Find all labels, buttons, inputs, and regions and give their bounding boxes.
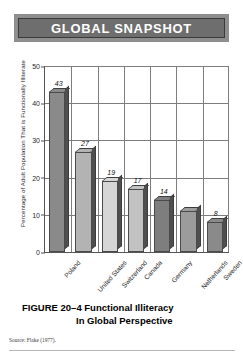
y-axis-tick-label: 20	[32, 174, 45, 181]
gridline	[45, 103, 229, 104]
y-axis-tick-label: 0	[36, 249, 45, 256]
banner-inner-frame: GLOBAL SNAPSHOT	[18, 18, 225, 38]
plot-area: 0102030405043Poland27United States19Swit…	[44, 66, 229, 253]
y-axis-tick-label: 10	[32, 211, 45, 218]
bar-value-label: 27	[81, 140, 89, 147]
bar-poland: 43Poland	[49, 92, 65, 252]
bar-value-label: 14	[160, 188, 168, 195]
category-separator	[176, 66, 177, 252]
bottom-rule	[9, 350, 235, 351]
bar-front-face	[207, 222, 223, 252]
bar-front-face	[128, 189, 144, 252]
banner-title: GLOBAL SNAPSHOT	[51, 21, 192, 36]
bar-side-face	[92, 145, 96, 249]
category-separator	[71, 66, 72, 252]
y-axis-tick-label: 30	[32, 137, 45, 144]
y-axis-tick-label: 50	[32, 63, 45, 70]
bar-netherlands: Netherlands	[180, 211, 196, 252]
gridline	[45, 140, 229, 141]
figure-caption: FIGURE 20–4 Functional Illiteracy In Glo…	[0, 302, 243, 326]
y-axis-tick-label: 40	[32, 100, 45, 107]
category-separator	[203, 66, 204, 252]
bar-front-face	[154, 200, 170, 252]
bar-front-face	[180, 211, 196, 252]
x-axis-tick-label: Poland	[63, 259, 82, 279]
bar-side-face	[223, 216, 227, 249]
bar-value-label: 17	[134, 177, 142, 184]
category-separator	[124, 66, 125, 252]
bar-canada: 17Canada	[128, 189, 144, 252]
category-separator	[98, 66, 99, 252]
bar-united-states: 27United States	[75, 152, 91, 252]
bar-side-face	[197, 205, 201, 249]
bar-value-label: 43	[55, 80, 63, 87]
figure-source: Source: Flake (1977).	[9, 337, 56, 343]
bar-side-face	[65, 86, 69, 249]
bar-side-face	[170, 194, 174, 249]
bar-front-face	[75, 152, 91, 252]
bar-sweden: 8Sweden	[207, 222, 223, 252]
bar-side-face	[118, 175, 122, 249]
caption-line-2: In Global Perspective	[0, 315, 243, 326]
bar-front-face	[102, 181, 118, 252]
x-axis-tick-label: United States	[96, 259, 128, 293]
x-axis-tick-label: Germany	[170, 259, 193, 284]
bar-side-face	[144, 183, 148, 249]
bar-germany: 14Germany	[154, 200, 170, 252]
category-separator	[150, 66, 151, 252]
bar-switzerland: 19Switzerland	[102, 181, 118, 252]
plot-inner: 0102030405043Poland27United States19Swit…	[45, 66, 229, 252]
plot-right-border	[228, 66, 229, 252]
caption-line-1: FIGURE 20–4 Functional Illiteracy	[0, 302, 243, 313]
bar-value-label: 8	[214, 210, 218, 217]
gridline	[45, 66, 229, 67]
global-snapshot-banner: GLOBAL SNAPSHOT	[14, 14, 229, 42]
bar-front-face	[49, 92, 65, 252]
y-axis-label: Percentage of Adult Population That is F…	[19, 44, 26, 244]
chart-figure: Percentage of Adult Population That is F…	[0, 52, 243, 300]
bar-value-label: 19	[107, 169, 115, 176]
